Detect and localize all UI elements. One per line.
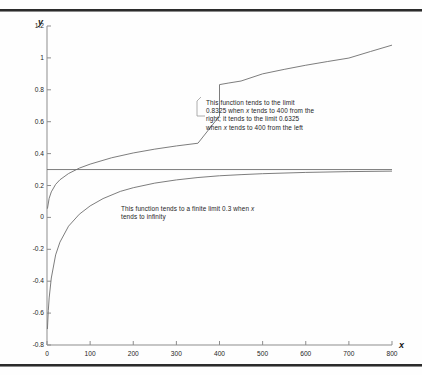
annotation-leaders xyxy=(197,97,205,116)
jump-annotation-leader xyxy=(197,97,205,116)
x-tick-label: 800 xyxy=(380,350,404,357)
x-tick-label: 100 xyxy=(78,350,102,357)
y-tick-label: 0.4 xyxy=(14,150,44,157)
x-tick-label: 600 xyxy=(294,350,318,357)
y-tick-label: 0.6 xyxy=(14,118,44,125)
x-tick-label: 200 xyxy=(121,350,145,357)
y-tick-label: 0 xyxy=(14,213,44,220)
y-tick-label: 0.2 xyxy=(14,182,44,189)
x-tick-label: 0 xyxy=(35,350,59,357)
x-tick-label: 300 xyxy=(164,350,188,357)
annotation-line: tends to infinity xyxy=(121,213,311,221)
series-group xyxy=(47,45,392,329)
y-tick-label: 1 xyxy=(14,54,44,61)
curve-discontinuous-right xyxy=(220,45,393,84)
curve-discontinuous-left xyxy=(47,117,219,209)
x-tick-label: 500 xyxy=(251,350,275,357)
y-tick-label: -0.2 xyxy=(14,245,44,252)
annotation-line: This function tends to the limit xyxy=(206,99,356,107)
chart-page: y x -0.8-0.6-0.4-0.200.20.40.60.811.2010… xyxy=(0,0,422,375)
y-tick-label: 1.2 xyxy=(14,22,44,29)
y-tick-label: -0.4 xyxy=(14,277,44,284)
annotation-line: right; it tends to the limit 0.6325 xyxy=(206,115,356,123)
annotation-line: 0.8325 when x tends to 400 from the xyxy=(206,107,356,115)
x-axis-title: x xyxy=(399,340,404,350)
annotation-line: This function tends to a finite limit 0.… xyxy=(121,205,311,213)
y-tick-label: -0.8 xyxy=(14,341,44,348)
jump-annotation: This function tends to the limit0.8325 w… xyxy=(206,99,356,132)
annotation-line: when x tends to 400 from the left xyxy=(206,124,356,132)
x-tick-label: 700 xyxy=(337,350,361,357)
limit-annotation: This function tends to a finite limit 0.… xyxy=(121,205,311,221)
chart-plot-area xyxy=(0,0,422,375)
y-tick-label: -0.6 xyxy=(14,309,44,316)
x-tick-label: 400 xyxy=(208,350,232,357)
axes-group xyxy=(47,26,392,345)
curve-finite-limit-function xyxy=(47,171,392,329)
y-tick-label: 0.8 xyxy=(14,86,44,93)
